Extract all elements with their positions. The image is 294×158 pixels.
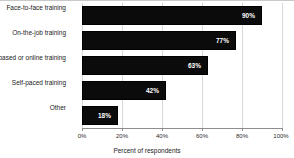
bar-value-label: 18% (98, 112, 111, 120)
plot-right-border (282, 3, 283, 128)
category-label: Web-based or online training (0, 53, 66, 62)
bar-value-label: 90% (242, 12, 255, 20)
bar-web-based-or-online-training[interactable]: 63% (82, 56, 208, 75)
bar-other[interactable]: 18% (82, 106, 118, 125)
x-tick-mark (122, 128, 123, 131)
category-label: Other (0, 103, 66, 112)
bar-row: Web-based or online training 63% (82, 53, 282, 78)
category-label: Face-to-face training (0, 3, 66, 12)
bar-row: On-the-job training 77% (82, 28, 282, 53)
bar-self-paced-training[interactable]: 42% (82, 81, 166, 100)
x-tick-label: 0% (78, 132, 87, 140)
x-tick-mark (82, 128, 83, 131)
x-tick-label: 40% (156, 132, 168, 140)
horizontal-bar-chart: Face-to-face training 90% On-the-job tra… (0, 0, 294, 158)
x-tick-label: 80% (236, 132, 248, 140)
bar-row: Other 18% (82, 103, 282, 128)
bar-value-label: 63% (188, 62, 201, 70)
x-tick-mark (202, 128, 203, 131)
x-tick-label: 20% (116, 132, 128, 140)
bar-value-label: 42% (146, 87, 159, 95)
category-label: On-the-job training (0, 28, 66, 37)
x-tick-label: 100% (273, 132, 288, 140)
x-axis-line (82, 128, 283, 129)
plot-area: Face-to-face training 90% On-the-job tra… (82, 3, 282, 128)
x-tick-label: 60% (196, 132, 208, 140)
bar-row: Self-paced training 42% (82, 78, 282, 103)
bar-value-label: 77% (216, 37, 229, 45)
x-axis-title: Percent of respondents (0, 146, 294, 155)
x-tick-mark (282, 128, 283, 131)
category-label: Self-paced training (0, 78, 66, 87)
bar-row: Face-to-face training 90% (82, 3, 282, 28)
x-tick-mark (162, 128, 163, 131)
x-tick-mark (242, 128, 243, 131)
bar-face-to-face-training[interactable]: 90% (82, 6, 262, 25)
bar-on-the-job-training[interactable]: 77% (82, 31, 236, 50)
